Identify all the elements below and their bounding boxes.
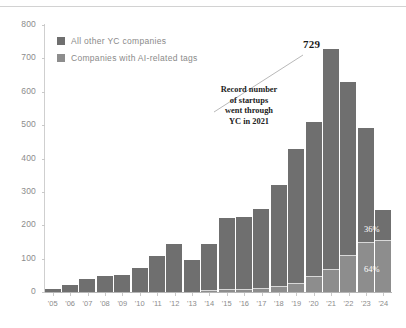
y-tick-mark: [42, 292, 45, 293]
bar-group[interactable]: [236, 217, 252, 292]
y-tick-mark: [42, 125, 45, 126]
chart-legend: All other YC companies Companies with AI…: [57, 36, 198, 70]
callout-line-1: Record number: [198, 85, 300, 96]
y-tick-label: 500: [10, 119, 36, 129]
y-tick-label: 100: [10, 253, 36, 263]
bar-segment-ai[interactable]: [201, 290, 217, 292]
x-tick-mark: [314, 293, 315, 296]
y-tick-mark: [42, 92, 45, 93]
legend-item-ai: Companies with AI-related tags: [57, 53, 198, 63]
ai-share-label: 36%: [364, 224, 380, 234]
x-tick-mark: [157, 293, 158, 296]
bar-segment-other[interactable]: [114, 275, 130, 292]
bar-group[interactable]: [219, 218, 235, 292]
callout-line-3: went through: [198, 106, 300, 117]
x-tick-mark: [122, 293, 123, 296]
legend-item-other: All other YC companies: [57, 36, 198, 46]
bar-group[interactable]: [97, 276, 113, 292]
legend-label-other: All other YC companies: [71, 36, 166, 46]
x-tick-mark: [140, 293, 141, 296]
y-tick-mark: [42, 259, 45, 260]
x-tick-label: '24: [369, 299, 397, 308]
bar-segment-ai[interactable]: [323, 269, 339, 292]
bar-segment-other[interactable]: [166, 244, 182, 292]
bar-group[interactable]: [62, 285, 78, 292]
bar-group[interactable]: [45, 289, 61, 292]
y-tick-label: 200: [10, 219, 36, 229]
bar-group[interactable]: [132, 268, 148, 292]
bar-group[interactable]: [306, 122, 322, 292]
y-tick-mark: [42, 25, 45, 26]
bar-segment-other[interactable]: [201, 244, 217, 291]
y-tick-label: 0: [10, 286, 36, 296]
x-tick-mark: [227, 293, 228, 296]
bar-segment-other[interactable]: [340, 82, 356, 256]
x-tick-mark: [383, 293, 384, 296]
bar-group[interactable]: [201, 244, 217, 292]
x-tick-mark: [349, 293, 350, 296]
bar-group[interactable]: [114, 275, 130, 292]
y-tick-label: 800: [10, 19, 36, 29]
bar-group[interactable]: [271, 185, 287, 292]
y-tick-mark: [42, 58, 45, 59]
y-tick-label: 600: [10, 86, 36, 96]
x-tick-mark: [366, 293, 367, 296]
bar-segment-other[interactable]: [62, 285, 78, 292]
bar-segment-other[interactable]: [306, 122, 322, 276]
x-tick-mark: [105, 293, 106, 296]
x-tick-mark: [244, 293, 245, 296]
bar-segment-other[interactable]: [271, 185, 287, 286]
bar-group[interactable]: [375, 210, 391, 292]
y-tick-mark: [42, 225, 45, 226]
bar-segment-other[interactable]: [79, 279, 95, 292]
x-axis-baseline: [44, 292, 392, 293]
bar-group[interactable]: [184, 260, 200, 292]
bar-segment-other[interactable]: [236, 217, 252, 289]
x-tick-mark: [192, 293, 193, 296]
callout-annotation: Record number of startups went through Y…: [198, 85, 300, 127]
bar-segment-other[interactable]: [97, 276, 113, 292]
bar-segment-other[interactable]: [149, 256, 165, 292]
x-tick-mark: [175, 293, 176, 296]
legend-label-ai: Companies with AI-related tags: [71, 53, 198, 63]
bar-group[interactable]: [166, 244, 182, 292]
bar-group[interactable]: [288, 149, 304, 293]
callout-line-4: YC in 2021: [198, 117, 300, 128]
bar-group[interactable]: [79, 279, 95, 292]
x-tick-mark: [262, 293, 263, 296]
bar-segment-other[interactable]: [184, 260, 200, 292]
square-swatch-icon: [57, 54, 65, 62]
x-tick-mark: [331, 293, 332, 296]
y-tick-label: 400: [10, 153, 36, 163]
bar-segment-other[interactable]: [288, 149, 304, 283]
x-tick-mark: [209, 293, 210, 296]
bar-group[interactable]: [323, 49, 339, 292]
square-swatch-icon: [57, 37, 65, 45]
bar-segment-ai[interactable]: [306, 276, 322, 292]
bar-segment-ai[interactable]: [271, 286, 287, 292]
stacked-bar-chart: 0100200300400500600700800 '05'06'07'08'0…: [0, 0, 406, 328]
bar-segment-ai[interactable]: [253, 288, 269, 292]
y-tick-label: 300: [10, 186, 36, 196]
callout-line-2: of startups: [198, 96, 300, 107]
y-tick-mark: [42, 192, 45, 193]
bar-segment-ai[interactable]: [236, 289, 252, 292]
bar-segment-other[interactable]: [323, 49, 339, 269]
peak-value-label: 729: [303, 38, 320, 50]
x-tick-mark: [88, 293, 89, 296]
bar-segment-ai[interactable]: [288, 283, 304, 292]
x-tick-mark: [279, 293, 280, 296]
bar-segment-other[interactable]: [219, 218, 235, 289]
bar-segment-other[interactable]: [132, 268, 148, 292]
bar-group[interactable]: [340, 82, 356, 292]
bar-segment-ai[interactable]: [219, 289, 235, 292]
y-tick-label: 700: [10, 52, 36, 62]
bar-group[interactable]: [253, 209, 269, 292]
x-tick-mark: [296, 293, 297, 296]
bar-group[interactable]: [149, 256, 165, 292]
x-tick-mark: [70, 293, 71, 296]
bar-segment-other[interactable]: [45, 289, 61, 292]
bar-segment-other[interactable]: [253, 209, 269, 288]
other-share-label: 64%: [364, 264, 380, 274]
bar-segment-ai[interactable]: [340, 255, 356, 292]
